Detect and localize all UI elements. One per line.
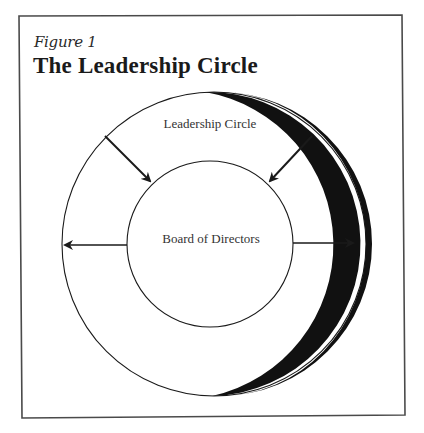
arrow-upper-left-icon xyxy=(105,136,150,181)
board-of-directors-label: Board of Directors xyxy=(131,231,291,247)
figure-title: The Leadership Circle xyxy=(33,53,258,79)
arrow-upper-right-icon xyxy=(270,136,312,181)
figure-number: Figure 1 xyxy=(34,33,96,51)
leadership-circle-label: Leadership Circle xyxy=(130,116,290,132)
